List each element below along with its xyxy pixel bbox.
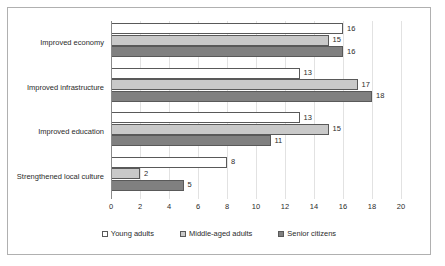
bar-value-label: 5 bbox=[188, 181, 192, 189]
chart-frame: Improved economy161516Improved infrastru… bbox=[7, 7, 431, 255]
x-axis-tick-label: 14 bbox=[310, 203, 318, 211]
bar-young[interactable] bbox=[111, 23, 343, 34]
axis-zero-line bbox=[111, 21, 112, 199]
bar-senior[interactable] bbox=[111, 180, 184, 191]
bar-value-label: 2 bbox=[144, 170, 148, 178]
legend-item[interactable]: Senior citizens bbox=[278, 230, 336, 238]
x-axis-tick-label: 16 bbox=[339, 203, 347, 211]
bar-senior[interactable] bbox=[111, 135, 271, 146]
legend-item[interactable]: Middle-aged adults bbox=[180, 230, 252, 238]
bar-young[interactable] bbox=[111, 68, 300, 79]
bar-value-label: 17 bbox=[362, 81, 370, 89]
bar-value-label: 8 bbox=[231, 158, 235, 166]
legend-swatch-icon bbox=[278, 231, 284, 237]
x-axis-tick-label: 18 bbox=[368, 203, 376, 211]
bar-group: Strengthened local culture825 bbox=[111, 155, 401, 200]
bar-group: Improved economy161516 bbox=[111, 21, 401, 66]
x-axis-tick-label: 12 bbox=[281, 203, 289, 211]
bar-value-label: 16 bbox=[347, 25, 355, 33]
plot-area: Improved economy161516Improved infrastru… bbox=[111, 21, 401, 199]
bar-young[interactable] bbox=[111, 112, 300, 123]
x-axis-tick-label: 8 bbox=[225, 203, 229, 211]
x-axis-tick-label: 0 bbox=[109, 203, 113, 211]
bar-middle[interactable] bbox=[111, 168, 140, 179]
bar-middle[interactable] bbox=[111, 35, 329, 46]
legend-label: Senior citizens bbox=[287, 230, 336, 238]
legend-label: Young adults bbox=[111, 230, 154, 238]
bar-group: Improved education131511 bbox=[111, 110, 401, 155]
legend-item[interactable]: Young adults bbox=[102, 230, 154, 238]
legend-swatch-icon bbox=[102, 231, 108, 237]
legend-label: Middle-aged adults bbox=[189, 230, 252, 238]
x-axis: 02468101214161820 bbox=[111, 199, 401, 215]
bar-middle[interactable] bbox=[111, 124, 329, 135]
chart-legend: Young adultsMiddle-aged adultsSenior cit… bbox=[8, 230, 430, 238]
x-axis-tick-label: 10 bbox=[252, 203, 260, 211]
bar-value-label: 13 bbox=[304, 69, 312, 77]
bar-value-label: 15 bbox=[333, 125, 341, 133]
category-label: Strengthened local culture bbox=[17, 173, 104, 181]
bar-senior[interactable] bbox=[111, 46, 343, 57]
x-axis-tick-label: 2 bbox=[138, 203, 142, 211]
gridline bbox=[401, 21, 402, 199]
bar-value-label: 18 bbox=[376, 92, 384, 100]
bar-value-label: 15 bbox=[333, 36, 341, 44]
x-axis-tick-label: 4 bbox=[167, 203, 171, 211]
bar-senior[interactable] bbox=[111, 91, 372, 102]
x-axis-tick-label: 6 bbox=[196, 203, 200, 211]
legend-swatch-icon bbox=[180, 231, 186, 237]
category-label: Improved education bbox=[38, 129, 104, 137]
bar-value-label: 11 bbox=[275, 137, 283, 145]
bar-value-label: 16 bbox=[347, 48, 355, 56]
bar-middle[interactable] bbox=[111, 79, 358, 90]
category-label: Improved infrastructure bbox=[27, 84, 104, 92]
bar-young[interactable] bbox=[111, 157, 227, 168]
bar-value-label: 13 bbox=[304, 114, 312, 122]
x-axis-tick-label: 20 bbox=[397, 203, 405, 211]
bar-group: Improved infrastructure131718 bbox=[111, 66, 401, 111]
category-label: Improved economy bbox=[40, 40, 104, 48]
